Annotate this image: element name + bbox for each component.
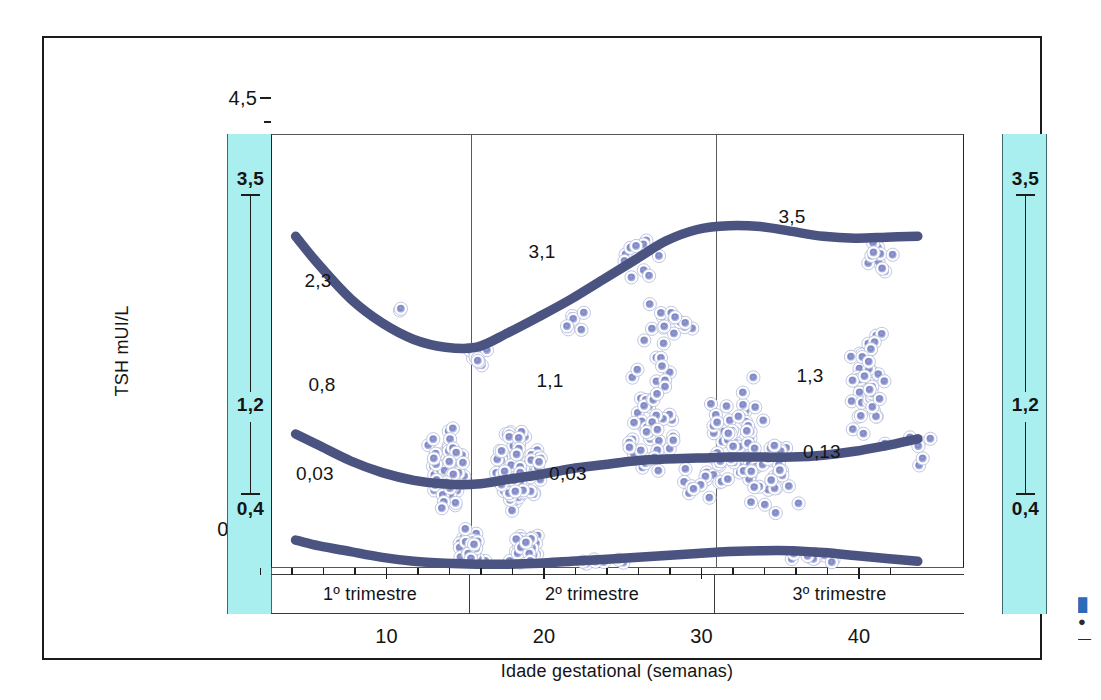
curve-annotation: 0,8 (308, 374, 335, 396)
band-label-middle-left: 1,2 (228, 394, 273, 416)
band-label-upper-left: 3,5 (228, 168, 273, 190)
x-tick-label: 20 (533, 625, 556, 648)
x-tick-minor (354, 568, 356, 575)
x-tick-minor (260, 568, 262, 575)
x-tick (858, 568, 860, 579)
x-tick (543, 568, 545, 579)
curve-annotation: 1,1 (536, 370, 563, 392)
x-tick-minor (827, 568, 829, 575)
x-tick-minor (638, 568, 640, 575)
figure-frame: TSH mUI/L 0,030,51,52,53,54,5 3,51,20,4 … (42, 36, 1042, 660)
x-tick-minor (764, 568, 766, 575)
curve-annotation: 2,3 (304, 270, 331, 292)
x-tick (386, 568, 388, 579)
y-tick-major (260, 97, 271, 99)
band-label-lower-left: 0,4 (228, 498, 273, 520)
band-whisker-lower-left (250, 422, 252, 493)
x-tick-label: 40 (848, 625, 871, 648)
scatter-and-curves (272, 135, 965, 569)
plot-area (271, 134, 964, 568)
edge-caption-line-2: ● (1078, 613, 1101, 630)
x-tick-minor (575, 568, 577, 575)
x-tick-label: 30 (690, 625, 713, 648)
band-whisker-lower-right (1025, 422, 1027, 493)
scatter-points (393, 234, 937, 570)
edge-caption-line-3: — (1078, 630, 1101, 647)
y-tick-label: 4,5 (229, 87, 257, 110)
band-label-upper-right: 3,5 (1003, 168, 1048, 190)
x-tick (701, 568, 703, 579)
x-tick-minor (795, 568, 797, 575)
x-tick-minor (732, 568, 734, 575)
curve-annotation: 0,03 (296, 463, 334, 485)
band-label-middle-right: 1,2 (1003, 394, 1048, 416)
x-tick-minor (512, 568, 514, 575)
reference-band-right: 3,51,20,4 (1002, 134, 1047, 614)
band-label-lower-right: 0,4 (1003, 498, 1048, 520)
band-whisker-upper-right (1025, 194, 1027, 392)
curve-annotation: 0,13 (803, 441, 841, 463)
curve-annotation: 3,1 (528, 241, 555, 263)
edge-caption: █ ● — (1078, 596, 1101, 666)
trimester-cell-2: 2º trimestre (470, 575, 715, 613)
x-tick-minor (890, 568, 892, 575)
curve-annotation: 3,5 (778, 206, 805, 228)
trimester-cell-3: 3º trimestre (715, 575, 964, 613)
x-tick-minor (323, 568, 325, 575)
x-tick-minor (417, 568, 419, 575)
x-tick-minor (606, 568, 608, 575)
curve-annotation: 0,03 (549, 463, 587, 485)
band-whisker-upper-left (250, 194, 252, 392)
y-tick-minor (264, 121, 271, 122)
x-tick-minor (449, 568, 451, 575)
x-tick-minor (480, 568, 482, 575)
edge-caption-line-1: █ (1078, 596, 1101, 613)
band-cap-lower-right (1016, 493, 1035, 495)
x-tick-minor (669, 568, 671, 575)
trimester-cell-1: 1º trimestre (271, 575, 470, 613)
x-tick-label: 10 (375, 625, 398, 648)
x-axis-title: Idade gestational (semanas) (501, 661, 734, 682)
band-cap-lower-left (241, 493, 260, 495)
trimester-strip: 1º trimestre 2º trimestre 3º trimestre (271, 574, 964, 614)
x-tick-minor (291, 568, 293, 575)
curve-annotation: 1,3 (796, 365, 823, 387)
upper-percentile-curve (296, 226, 918, 349)
reference-band-left: 3,51,20,4 (227, 134, 272, 614)
